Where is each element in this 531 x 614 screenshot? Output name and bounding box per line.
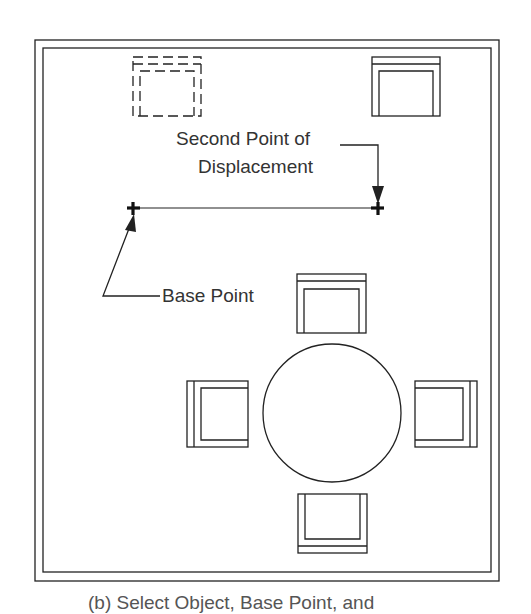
second-point-marker-icon [371, 202, 384, 215]
second-point-arrowhead [372, 186, 384, 204]
second-point-label-line1: Second Point of [176, 128, 310, 150]
chair-top [297, 274, 366, 333]
room-inner-wall [43, 48, 491, 572]
base-point-leader [103, 226, 160, 296]
room-outer-wall [35, 40, 499, 581]
chair-bottom [298, 494, 367, 553]
second-point-leader [340, 145, 378, 192]
base-point-arrowhead [125, 214, 136, 232]
chair-right [415, 381, 477, 447]
second-point-label-line2: Displacement [198, 156, 313, 178]
base-point-label: Base Point [162, 285, 254, 307]
chair-moved [372, 57, 440, 116]
chair-original-dashed [133, 57, 201, 116]
figure-caption: (b) Select Object, Base Point, and [88, 592, 374, 614]
table-round [263, 344, 401, 482]
base-point-marker-icon [127, 202, 140, 215]
chair-left [187, 381, 248, 447]
